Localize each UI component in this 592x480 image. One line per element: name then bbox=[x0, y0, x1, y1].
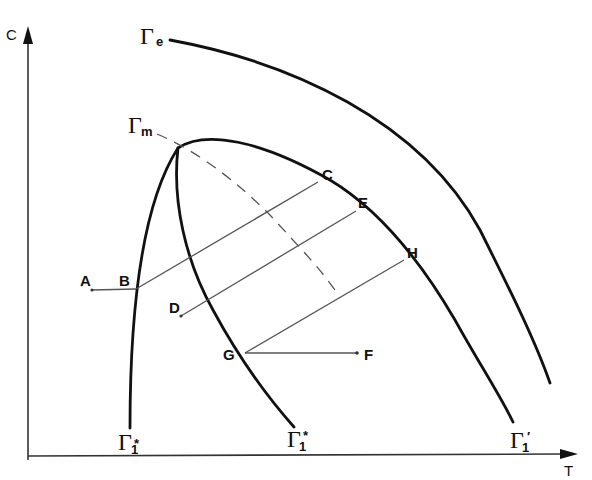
point-a-marker bbox=[90, 288, 93, 291]
curve-gamma-e bbox=[170, 40, 550, 383]
point-label-f: F bbox=[364, 346, 373, 363]
label-gamma-1-star-right: Γ 1 * bbox=[287, 426, 309, 454]
point-label-e: E bbox=[358, 194, 368, 211]
svg-text:*: * bbox=[303, 428, 309, 443]
point-label-h: H bbox=[407, 244, 418, 261]
label-gamma-1-star-left: Γ 1 * bbox=[118, 429, 140, 457]
x-axis-arrow-icon bbox=[560, 449, 578, 459]
curve-gamma-m bbox=[157, 134, 337, 293]
point-label-b: B bbox=[119, 272, 130, 289]
svg-text:Γ: Γ bbox=[140, 23, 154, 49]
label-gamma-1-prime: Γ 1 ′ bbox=[510, 427, 530, 455]
x-axis-label: T bbox=[564, 462, 573, 479]
svg-text:Γ: Γ bbox=[128, 112, 142, 138]
point-f-marker bbox=[355, 351, 359, 355]
y-axis-arrow-icon bbox=[23, 26, 33, 44]
y-axis-label: C bbox=[6, 26, 17, 43]
svg-text:*: * bbox=[134, 436, 140, 451]
curve-gamma-1-star-right bbox=[177, 148, 294, 427]
x-axis bbox=[28, 454, 562, 456]
svg-text:m: m bbox=[141, 124, 153, 139]
tie-line-d-e bbox=[181, 211, 356, 316]
point-labels: A B C D E F G H bbox=[80, 166, 418, 363]
point-label-c: C bbox=[322, 166, 333, 183]
point-label-a: A bbox=[80, 272, 91, 289]
line-a-b bbox=[92, 289, 136, 290]
svg-text:Γ: Γ bbox=[118, 429, 132, 455]
tie-lines bbox=[90, 182, 404, 355]
svg-text:′: ′ bbox=[527, 429, 530, 444]
tie-line-g-h bbox=[245, 260, 404, 353]
phase-diagram: C T Γ e Γ m A B C D E F G H Γ bbox=[0, 0, 592, 480]
point-label-d: D bbox=[169, 299, 180, 316]
svg-text:e: e bbox=[156, 34, 163, 49]
point-label-g: G bbox=[223, 346, 235, 363]
tie-line-b-c bbox=[136, 182, 318, 289]
label-gamma-e: Γ e bbox=[140, 23, 163, 49]
label-gamma-m: Γ m bbox=[128, 112, 153, 139]
point-d-marker bbox=[179, 314, 182, 317]
